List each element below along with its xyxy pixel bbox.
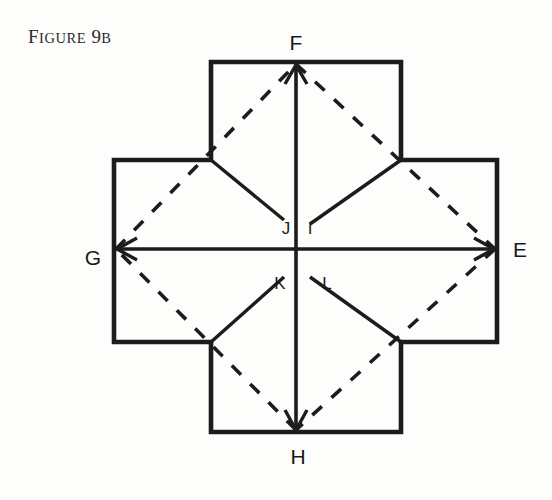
vertex-label-G: G xyxy=(85,247,101,268)
fold-line-J xyxy=(211,160,284,220)
vertex-label-E: E xyxy=(513,239,527,260)
vertex-label-F: F xyxy=(290,32,303,53)
figure-drawing xyxy=(0,0,552,500)
fold-label-J: J xyxy=(282,220,291,237)
fold-label-I: I xyxy=(308,220,313,237)
figure-canvas: FIGURE 9B F G E H J I K L xyxy=(0,0,552,500)
fold-label-L: L xyxy=(322,275,331,292)
dashed-diagonal-F-E xyxy=(296,64,495,249)
fold-line-K xyxy=(211,277,284,342)
cross-outline xyxy=(114,62,497,432)
dashed-diagonal-H-G xyxy=(116,249,296,430)
fold-line-I xyxy=(310,160,401,224)
dashed-diagonal-G-F xyxy=(116,64,296,249)
fold-label-K: K xyxy=(274,275,285,292)
vertex-label-H: H xyxy=(290,446,305,467)
